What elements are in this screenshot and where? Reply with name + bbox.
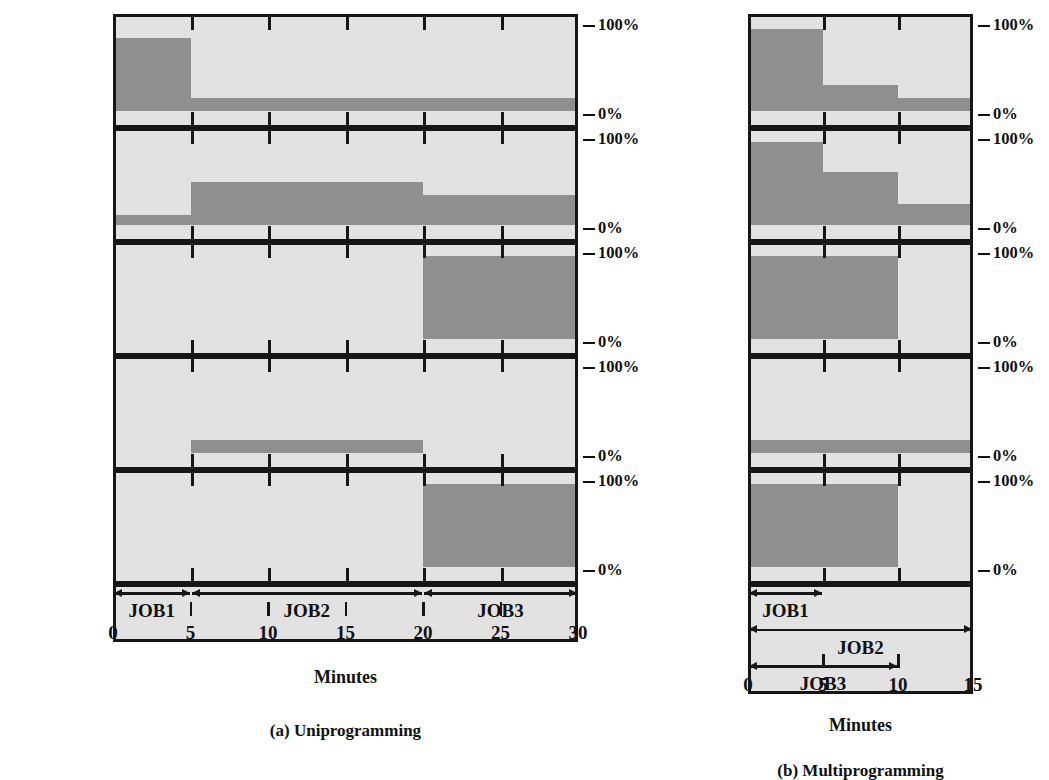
tick-top: [191, 245, 194, 258]
x-tick-label: 5: [801, 675, 845, 694]
tick-bottom: [268, 226, 271, 239]
tick-bottom: [191, 454, 194, 467]
axis-label-100pct: 100%: [978, 359, 1034, 376]
plot-area: [116, 481, 575, 567]
axis-label-0pct: 0%: [583, 220, 623, 237]
bar-segment: [191, 182, 424, 225]
panel-multiprogramming-printer: [748, 470, 973, 584]
axis-label-100pct: 100%: [978, 245, 1034, 262]
x-tick-label: 0: [91, 623, 135, 642]
x-tick-label: 15: [324, 623, 368, 642]
job-label: JOB2: [748, 638, 973, 657]
plot-area: [116, 139, 575, 225]
tick-top: [823, 245, 826, 258]
bar-segment: [113, 38, 191, 111]
tick-bottom: [423, 568, 426, 581]
tick-top: [191, 17, 194, 30]
tick-bottom: [268, 112, 271, 125]
tick-bottom: [191, 112, 194, 125]
bar-segment: [191, 440, 424, 453]
x-tick: [500, 602, 503, 616]
tick-top: [346, 473, 349, 486]
bar-segment: [748, 29, 823, 111]
tick-bottom: [423, 112, 426, 125]
job-label: JOB1: [748, 601, 823, 620]
axis-label-0pct: 0%: [583, 334, 623, 351]
tick-top: [898, 131, 901, 144]
tick-top: [501, 131, 504, 144]
figure-root: CPU100%0%Memory100%0%Disk100%0%Terminal1…: [0, 0, 1049, 780]
tick-bottom: [191, 340, 194, 353]
job-label: JOB2: [191, 601, 424, 620]
tick-bottom: [898, 112, 901, 125]
axis-label-0pct: 0%: [978, 220, 1018, 237]
bar-segment: [113, 215, 191, 225]
tick-bottom: [823, 112, 826, 125]
tick-bottom: [501, 568, 504, 581]
tick-bottom: [823, 340, 826, 353]
tick-top: [423, 245, 426, 258]
tick-top: [898, 473, 901, 486]
panel-uniprogramming-memory: [113, 128, 578, 242]
tick-top: [268, 473, 271, 486]
bar-segment: [423, 256, 578, 339]
axis-label-0pct: 0%: [978, 334, 1018, 351]
axis-label-0pct: 0%: [583, 106, 623, 123]
tick-bottom: [898, 568, 901, 581]
x-axis-title-multiprogramming: Minutes: [748, 716, 973, 734]
bar-segment: [898, 204, 973, 226]
tick-top: [423, 359, 426, 372]
panel-uniprogramming-terminal: [113, 356, 578, 470]
x-tick-label: 10: [246, 623, 290, 642]
bar-segment: [748, 256, 898, 339]
plot-area: [116, 25, 575, 111]
plot-area: [751, 25, 970, 111]
tick-top: [823, 131, 826, 144]
tick-top: [823, 359, 826, 372]
tick-top: [823, 17, 826, 30]
axis-label-0pct: 0%: [583, 562, 623, 579]
tick-top: [501, 245, 504, 258]
tick-bottom: [191, 226, 194, 239]
bar-segment: [423, 195, 578, 225]
chart-caption-multiprogramming: (b) Multiprogramming: [688, 762, 1033, 779]
plot-area: [751, 481, 970, 567]
tick-top: [823, 473, 826, 486]
tick-bottom: [346, 454, 349, 467]
bar-segment: [191, 98, 579, 111]
x-tick-label: 30: [556, 623, 600, 642]
panel-multiprogramming-disk: [748, 242, 973, 356]
job-arrow: [114, 592, 190, 595]
tick-bottom: [898, 226, 901, 239]
tick-bottom: [346, 568, 349, 581]
axis-label-0pct: 0%: [978, 106, 1018, 123]
tick-top: [268, 245, 271, 258]
tick-bottom: [423, 454, 426, 467]
tick-bottom: [423, 340, 426, 353]
bar-segment: [748, 142, 823, 225]
tick-bottom: [823, 568, 826, 581]
bar-segment: [748, 484, 898, 567]
axis-label-0pct: 0%: [978, 448, 1018, 465]
bar-segment: [823, 85, 898, 111]
tick-top: [268, 17, 271, 30]
tick-top: [501, 17, 504, 30]
plot-area: [116, 253, 575, 339]
tick-bottom: [501, 454, 504, 467]
tick-bottom: [501, 340, 504, 353]
x-tick-label: 15: [951, 675, 995, 694]
tick-bottom: [346, 226, 349, 239]
x-axis-title-uniprogramming: Minutes: [113, 668, 578, 686]
axis-label-100pct: 100%: [978, 473, 1034, 490]
tick-top: [346, 17, 349, 30]
tick-top: [898, 359, 901, 372]
x-tick-label: 20: [401, 623, 445, 642]
panel-multiprogramming-terminal: [748, 356, 973, 470]
tick-top: [501, 473, 504, 486]
tick-bottom: [501, 112, 504, 125]
tick-bottom: [191, 568, 194, 581]
tick-bottom: [268, 340, 271, 353]
plot-area: [116, 367, 575, 453]
x-tick: [345, 602, 348, 616]
bar-segment: [748, 440, 973, 453]
